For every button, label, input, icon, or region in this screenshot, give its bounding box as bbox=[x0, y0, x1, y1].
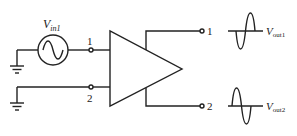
output-terminal-1 bbox=[200, 29, 204, 33]
ac-source-icon bbox=[38, 35, 68, 65]
output-1-terminal-label: 1 bbox=[207, 25, 213, 37]
wire-output-1 bbox=[146, 31, 200, 50]
vout2-label: Vout2 bbox=[266, 100, 286, 114]
output-2-terminal-label: 2 bbox=[207, 100, 213, 112]
input-2-label: 2 bbox=[87, 92, 93, 104]
input-terminal-1 bbox=[89, 48, 93, 52]
amplifier-schematic: Vin1 1 2 1 2 Vout1 Vout2 bbox=[0, 0, 297, 136]
output-terminal-2 bbox=[200, 104, 204, 108]
vout1-label: Vout1 bbox=[266, 25, 286, 39]
input-1-label: 1 bbox=[87, 35, 93, 47]
ground-icon-input-2 bbox=[10, 87, 24, 110]
ground-icon-input-1 bbox=[10, 50, 24, 73]
source-label: Vin1 bbox=[43, 17, 61, 33]
waveform-out2-icon bbox=[228, 88, 263, 124]
waveform-out1-icon bbox=[228, 13, 263, 49]
wire-output-2 bbox=[146, 88, 200, 106]
input-terminal-2 bbox=[89, 85, 93, 89]
